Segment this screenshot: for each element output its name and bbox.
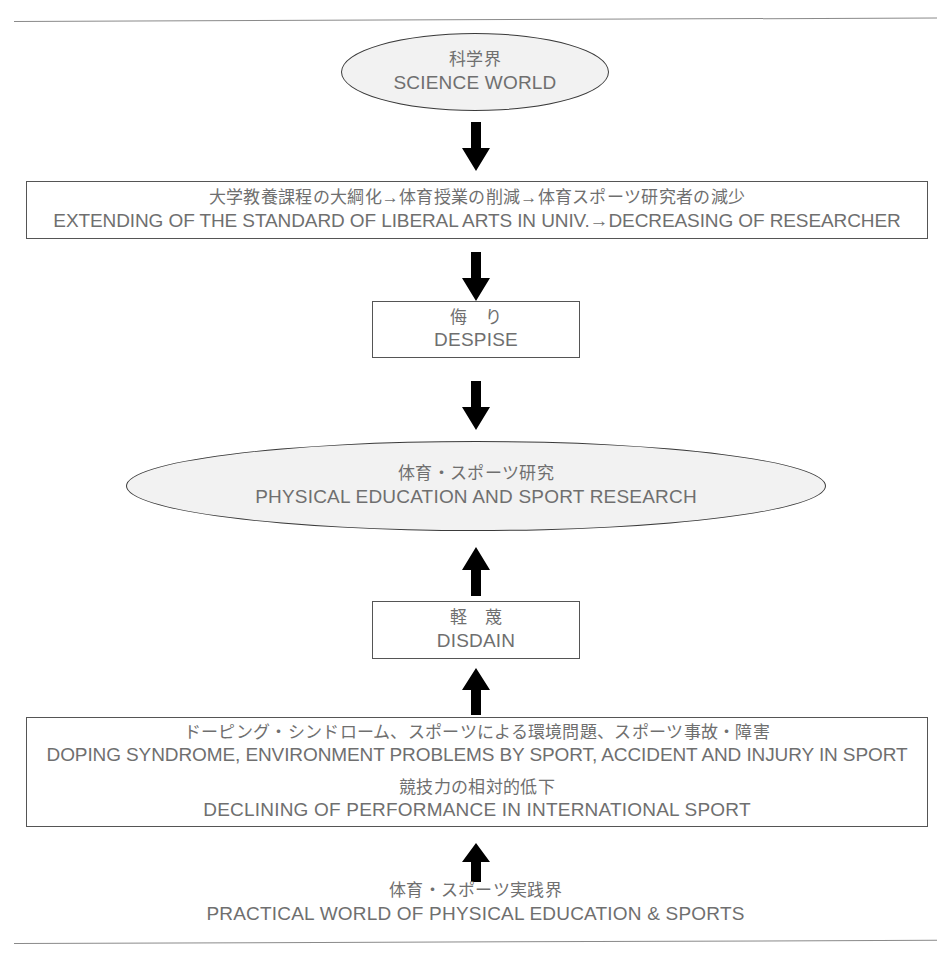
arrow-despise-to-pe-research bbox=[461, 381, 491, 431]
arrow-liberal-arts-to-despise bbox=[461, 252, 491, 302]
node-problems-group-1: ドーピング・シンドローム、スポーツによる環境問題、スポーツ事故・障害 DOPIN… bbox=[47, 723, 908, 767]
node-disdain-label-jp: 軽 蔑 bbox=[450, 608, 502, 629]
node-problems-label-en-2: DECLINING OF PERFORMANCE IN INTERNATIONA… bbox=[203, 798, 750, 821]
arrow-down-icon bbox=[461, 381, 491, 431]
node-despise: 侮 り DESPISE bbox=[372, 301, 580, 358]
node-despise-label-en: DESPISE bbox=[434, 328, 518, 351]
top-divider-rule bbox=[14, 17, 937, 22]
bottom-divider-rule bbox=[14, 940, 937, 944]
node-disdain: 軽 蔑 DISDAIN bbox=[372, 601, 580, 659]
arrow-up-icon bbox=[461, 842, 491, 882]
node-science-world: 科学界 SCIENCE WORLD bbox=[341, 33, 609, 111]
arrow-problems-to-disdain bbox=[461, 667, 491, 715]
node-practical-world-label-jp: 体育・スポーツ実践界 bbox=[389, 881, 562, 902]
node-pe-research-label-jp: 体育・スポーツ研究 bbox=[398, 464, 554, 485]
node-problems: ドーピング・シンドローム、スポーツによる環境問題、スポーツ事故・障害 DOPIN… bbox=[26, 717, 928, 827]
arrow-up-icon bbox=[461, 667, 491, 715]
node-problems-label-jp-2: 競技力の相対的低下 bbox=[399, 778, 555, 799]
node-practical-world: 体育・スポーツ実践界 PRACTICAL WORLD OF PHYSICAL E… bbox=[0, 881, 951, 925]
node-problems-label-jp-1: ドーピング・シンドローム、スポーツによる環境問題、スポーツ事故・障害 bbox=[184, 723, 770, 744]
arrow-practical-world-to-problems bbox=[461, 842, 491, 882]
node-pe-research: 体育・スポーツ研究 PHYSICAL EDUCATION AND SPORT R… bbox=[126, 441, 826, 531]
arrow-up-icon bbox=[461, 546, 491, 596]
arrow-down-icon bbox=[461, 122, 491, 172]
node-science-world-label-jp: 科学界 bbox=[449, 50, 501, 71]
node-liberal-arts-label-jp: 大学教養課程の大綱化→体育授業の削減→体育スポーツ研究者の減少 bbox=[209, 188, 745, 209]
arrow-down-icon bbox=[461, 252, 491, 302]
arrow-disdain-to-pe-research bbox=[461, 546, 491, 596]
arrow-science-to-liberal-arts bbox=[461, 122, 491, 172]
node-disdain-label-en: DISDAIN bbox=[437, 629, 515, 652]
diagram-canvas: 科学界 SCIENCE WORLD 大学教養課程の大綱化→体育授業の削減→体育ス… bbox=[0, 0, 951, 964]
node-liberal-arts-label-en: EXTENDING OF THE STANDARD OF LIBERAL ART… bbox=[53, 209, 900, 232]
node-despise-label-jp: 侮 り bbox=[450, 308, 502, 329]
node-science-world-label-en: SCIENCE WORLD bbox=[393, 71, 556, 94]
node-pe-research-label-en: PHYSICAL EDUCATION AND SPORT RESEARCH bbox=[255, 485, 697, 508]
node-practical-world-label-en: PRACTICAL WORLD OF PHYSICAL EDUCATION & … bbox=[206, 902, 744, 925]
node-liberal-arts: 大学教養課程の大綱化→体育授業の削減→体育スポーツ研究者の減少 EXTENDIN… bbox=[26, 181, 928, 239]
node-problems-group-2: 競技力の相対的低下 DECLINING OF PERFORMANCE IN IN… bbox=[203, 778, 750, 822]
node-problems-label-en-1: DOPING SYNDROME, ENVIRONMENT PROBLEMS BY… bbox=[47, 743, 908, 766]
